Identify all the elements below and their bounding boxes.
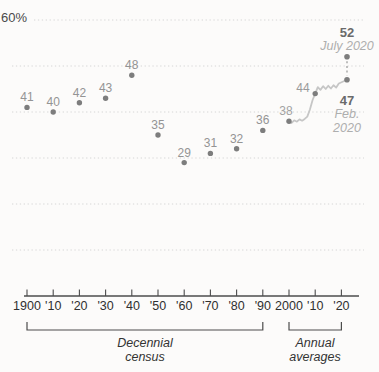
census-dot-1900 xyxy=(24,105,29,110)
x-tick-label-1980: '80 xyxy=(228,299,244,313)
x-tick-label-1960: '60 xyxy=(176,299,192,313)
x-tick-label-2000: 2000 xyxy=(275,299,303,313)
x-tick-label-1970: '70 xyxy=(202,299,218,313)
census-value-label-1990: 36 xyxy=(256,113,270,127)
census-value-label-1900: 41 xyxy=(20,90,34,104)
census-dot-1950 xyxy=(155,132,160,137)
census-value-label-1980: 32 xyxy=(230,132,244,146)
x-tick-label-2020: '20 xyxy=(333,299,349,313)
x-tick-label-1990: '90 xyxy=(255,299,271,313)
census-value-label-1960: 29 xyxy=(178,146,192,160)
census-dot-1960 xyxy=(182,160,187,165)
census-value-label-1970: 31 xyxy=(204,136,218,150)
census-dot-1980 xyxy=(234,146,239,151)
annual-averages-line xyxy=(289,80,347,123)
x-tick-label-1920: '20 xyxy=(71,299,87,313)
x-tick-label-2010: '10 xyxy=(307,299,323,313)
census-value-label-1950: 35 xyxy=(151,118,165,132)
july-2020-dot xyxy=(344,54,350,60)
x-tick-label-1950: '50 xyxy=(150,299,166,313)
group-bracket-1 xyxy=(289,322,341,330)
census-dot-1940 xyxy=(129,73,134,78)
census-dot-1990 xyxy=(260,128,265,133)
annual-dot-2000 xyxy=(286,119,291,124)
census-dot-1930 xyxy=(103,96,108,101)
census-value-label-1930: 43 xyxy=(99,81,113,95)
census-value-label-1920: 42 xyxy=(73,86,87,100)
x-tick-label-1930: '30 xyxy=(97,299,113,313)
plot-svg: 414042434835293132361900'10'20'30'40'50'… xyxy=(0,0,379,372)
census-value-label-1910: 40 xyxy=(47,95,61,109)
feb-2020-dot xyxy=(344,77,350,83)
x-tick-label-1900: 1900 xyxy=(13,299,41,313)
census-dot-1970 xyxy=(208,151,213,156)
census-dot-1920 xyxy=(77,100,82,105)
group-bracket-0 xyxy=(27,322,263,330)
annual-dot-2010 xyxy=(313,91,318,96)
chart-container: 414042434835293132361900'10'20'30'40'50'… xyxy=(0,0,379,372)
x-tick-label-1940: '40 xyxy=(124,299,140,313)
census-dot-1910 xyxy=(51,109,56,114)
census-value-label-1940: 48 xyxy=(125,58,139,72)
x-tick-label-1910: '10 xyxy=(45,299,61,313)
